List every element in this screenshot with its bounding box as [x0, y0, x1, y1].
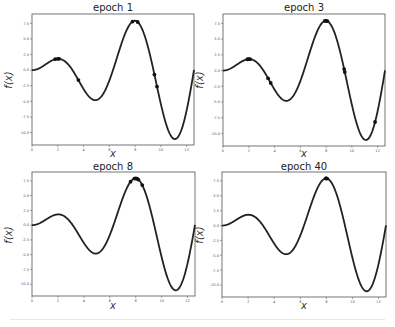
function-curve: [32, 178, 195, 290]
y-tick-label: 7.5: [214, 22, 220, 26]
x-tick-label: 10: [159, 299, 164, 303]
sample-point: [129, 180, 133, 184]
y-tick-label: -10.0: [211, 132, 221, 136]
x-tick-label: 12: [375, 149, 380, 153]
function-curve: [32, 21, 194, 139]
x-tick-label: 8: [325, 149, 328, 153]
x-tick-label: 8: [134, 148, 137, 152]
sample-point: [325, 19, 329, 23]
sample-point: [153, 73, 157, 77]
y-tick-label: 2.5: [23, 53, 29, 57]
y-axis-label: f(x): [3, 226, 14, 243]
sample-point: [266, 76, 270, 80]
subplot-title: epoch 40: [281, 161, 327, 172]
y-tick-label: -5.0: [212, 254, 220, 258]
y-tick-label: -2.5: [213, 85, 220, 89]
y-axis-label: f(x): [194, 226, 205, 243]
y-tick-label: 7.5: [213, 179, 219, 183]
y-tick-label: -2.5: [212, 239, 219, 243]
divider: [10, 319, 385, 320]
y-tick-label: -5.0: [213, 100, 221, 104]
x-tick-label: 4: [82, 148, 85, 152]
y-tick-label: -7.5: [22, 268, 29, 272]
plot-area: [32, 14, 194, 145]
subplot-title: epoch 1: [93, 2, 133, 13]
figure: epoch 1 x f(x) 0246810127.55.02.50.0-2.5…: [0, 0, 395, 327]
y-tick-label: -2.5: [22, 84, 29, 88]
y-tick-label: -5.0: [22, 253, 30, 257]
x-tick-label: 10: [350, 149, 355, 153]
y-tick-label: 2.5: [23, 209, 29, 213]
x-tick-label: 4: [273, 300, 276, 304]
y-tick-label: -7.5: [212, 269, 219, 273]
x-tick-label: 8: [135, 299, 138, 303]
x-tick-label: 12: [185, 299, 190, 303]
x-tick-label: 12: [184, 148, 189, 152]
sample-point: [155, 85, 159, 89]
y-tick-label: 0.0: [213, 224, 219, 228]
x-tick-label: 0: [222, 149, 225, 153]
plot-area: [222, 172, 386, 297]
x-tick-label: 0: [221, 300, 224, 304]
y-axis-label: f(x): [3, 71, 14, 88]
y-tick-label: -10.0: [20, 282, 30, 286]
x-tick-label: 2: [248, 149, 250, 153]
subplot-epoch-3: epoch 3 x f(x) 0246810127.55.02.50.0-2.5…: [194, 2, 385, 159]
y-tick-label: 0.0: [23, 68, 29, 72]
plot-area: [223, 14, 385, 146]
sample-point: [140, 183, 144, 187]
function-curve: [223, 21, 385, 140]
y-tick-label: -7.5: [22, 115, 29, 119]
sample-point: [325, 177, 329, 181]
x-tick-label: 10: [350, 300, 355, 304]
x-tick-label: 0: [31, 299, 34, 303]
function-curve: [222, 178, 386, 291]
sample-point: [57, 57, 61, 61]
sample-point: [248, 57, 252, 61]
y-tick-label: -10.0: [210, 283, 220, 287]
y-tick-label: -2.5: [22, 238, 29, 242]
x-tick-label: 0: [31, 148, 34, 152]
y-tick-label: 5.0: [213, 194, 219, 198]
sample-point: [373, 120, 377, 124]
y-tick-label: 5.0: [23, 194, 29, 198]
y-tick-label: -5.0: [22, 100, 30, 104]
x-tick-label: 2: [57, 148, 59, 152]
y-tick-label: 7.5: [23, 22, 29, 26]
subplot-epoch-40: epoch 40 x f(x) 0246810127.55.02.50.0-2.…: [194, 161, 386, 311]
sample-point: [76, 78, 80, 82]
plot-area: [32, 172, 195, 296]
x-tick-label: 8: [325, 300, 328, 304]
y-tick-label: -10.0: [20, 131, 30, 135]
y-tick-label: 2.5: [213, 209, 219, 213]
x-tick-label: 2: [57, 299, 59, 303]
x-tick-label: 4: [83, 299, 86, 303]
sample-point: [343, 70, 347, 74]
y-tick-label: -7.5: [213, 116, 220, 120]
sample-point: [269, 81, 273, 85]
x-tick-label: 2: [247, 300, 249, 304]
subplot-title: epoch 8: [93, 161, 133, 172]
x-tick-label: 10: [159, 148, 164, 152]
sample-point: [136, 20, 140, 24]
sample-point: [136, 178, 140, 182]
y-tick-label: 7.5: [23, 179, 29, 183]
y-tick-label: 2.5: [214, 53, 220, 57]
x-tick-label: 12: [376, 300, 381, 304]
y-tick-label: 0.0: [214, 69, 220, 73]
sample-point: [131, 20, 135, 24]
y-tick-label: 5.0: [23, 37, 29, 41]
y-tick-label: 0.0: [23, 223, 29, 227]
y-tick-label: 5.0: [214, 37, 220, 41]
subplot-epoch-8: epoch 8 x f(x) 0246810127.55.02.50.0-2.5…: [3, 161, 195, 311]
x-tick-label: 4: [273, 149, 276, 153]
subplot-title: epoch 3: [284, 2, 324, 13]
y-axis-label: f(x): [194, 71, 205, 88]
subplot-epoch-1: epoch 1 x f(x) 0246810127.55.02.50.0-2.5…: [3, 2, 194, 159]
